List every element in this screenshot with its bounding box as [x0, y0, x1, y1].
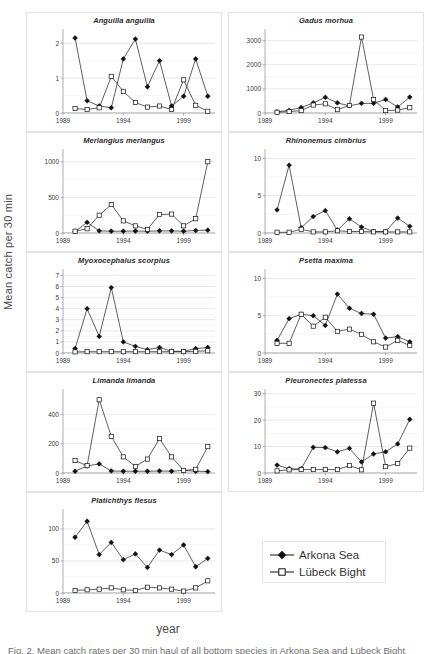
svg-text:100: 100: [48, 525, 59, 532]
data-point-lubeck-bight: [299, 312, 303, 316]
data-point-lubeck-bight: [347, 327, 351, 331]
data-point-lubeck-bight: [408, 343, 412, 347]
data-point-arkona-sea: [383, 336, 388, 341]
data-point-lubeck-bight: [359, 468, 363, 472]
data-point-lubeck-bight: [133, 100, 137, 104]
data-point-lubeck-bight: [182, 589, 186, 593]
chart-panel: Rhinonemus cimbrius0510198919941999: [228, 132, 424, 252]
data-point-lubeck-bight: [384, 345, 388, 349]
data-point-arkona-sea: [335, 449, 340, 454]
data-point-lubeck-bight: [335, 229, 339, 233]
chart-plot: 0102030198919941999: [229, 385, 425, 493]
series-line: [277, 165, 410, 231]
data-point-lubeck-bight: [73, 350, 77, 354]
series-line: [277, 229, 410, 232]
data-point-lubeck-bight: [299, 467, 303, 471]
data-point-lubeck-bight: [396, 230, 400, 234]
data-point-lubeck-bight: [335, 108, 339, 112]
data-point-lubeck-bight: [359, 229, 363, 233]
filled-diamond-icon: [269, 549, 295, 561]
svg-text:2: 2: [55, 327, 59, 334]
figure-caption: Fig. 2. Mean catch rates per 30 min haul…: [8, 645, 428, 654]
data-point-lubeck-bight: [85, 588, 89, 592]
data-point-arkona-sea: [395, 442, 400, 447]
svg-text:1989: 1989: [56, 597, 71, 604]
chart-plot: 0200400198919941999: [27, 385, 223, 493]
data-point-lubeck-bight: [396, 338, 400, 342]
data-point-lubeck-bight: [121, 588, 125, 592]
data-point-arkona-sea: [121, 557, 126, 562]
series-line: [75, 400, 208, 471]
svg-text:1989: 1989: [56, 237, 71, 244]
data-point-lubeck-bight: [206, 349, 210, 353]
chart-title: Pleuronectes platessa: [229, 376, 423, 385]
svg-text:1994: 1994: [116, 357, 131, 364]
data-point-lubeck-bight: [323, 230, 327, 234]
data-point-lubeck-bight: [311, 103, 315, 107]
data-point-lubeck-bight: [169, 107, 173, 111]
data-point-arkona-sea: [287, 316, 292, 321]
data-point-lubeck-bight: [169, 455, 173, 459]
data-point-lubeck-bight: [206, 109, 210, 113]
chart-plot: 0510198919941999: [229, 145, 425, 253]
data-point-arkona-sea: [133, 37, 138, 42]
data-point-arkona-sea: [359, 225, 364, 230]
legend-label: Arkona Sea: [299, 549, 359, 561]
data-point-lubeck-bight: [384, 108, 388, 112]
chart-title: Limanda limanda: [27, 376, 221, 385]
data-point-lubeck-bight: [97, 398, 101, 402]
data-point-arkona-sea: [205, 94, 210, 99]
svg-text:1994: 1994: [116, 477, 131, 484]
data-point-lubeck-bight: [347, 463, 351, 467]
data-point-arkona-sea: [371, 452, 376, 457]
data-point-lubeck-bight: [275, 110, 279, 114]
legend-item-arkona-sea: Arkona Sea: [269, 546, 379, 563]
svg-text:10: 10: [254, 443, 262, 450]
data-point-lubeck-bight: [347, 229, 351, 233]
data-point-lubeck-bight: [145, 350, 149, 354]
data-point-lubeck-bight: [311, 467, 315, 471]
data-point-lubeck-bight: [194, 467, 198, 471]
svg-text:1994: 1994: [116, 237, 131, 244]
svg-text:20: 20: [254, 417, 262, 424]
svg-text:1999: 1999: [176, 597, 191, 604]
data-point-lubeck-bight: [287, 468, 291, 472]
data-point-lubeck-bight: [109, 434, 113, 438]
svg-text:0: 0: [55, 230, 59, 237]
chart-plot: 01234567198919941999: [27, 265, 223, 373]
chart-panel: Anguilla anguilla012198919941999: [26, 12, 222, 132]
chart-plot: 0510198919941999: [229, 265, 425, 373]
data-point-lubeck-bight: [371, 401, 375, 405]
chart-title: Merlangius merlangus: [27, 136, 221, 145]
data-point-lubeck-bight: [347, 103, 351, 107]
svg-text:0: 0: [257, 110, 261, 117]
data-point-lubeck-bight: [182, 224, 186, 228]
data-point-arkona-sea: [109, 105, 114, 110]
svg-text:1000: 1000: [247, 85, 262, 92]
svg-text:10: 10: [254, 155, 262, 162]
data-point-lubeck-bight: [311, 324, 315, 328]
data-point-lubeck-bight: [109, 350, 113, 354]
chart-plot: 012198919941999: [27, 25, 223, 133]
legend-label: Lübeck Bight: [299, 566, 366, 578]
chart-panel: Merlangius merlangus05001000198919941999: [26, 132, 222, 252]
legend: Arkona Sea Lübeck Bight: [262, 541, 386, 583]
data-point-lubeck-bight: [323, 102, 327, 106]
series-line: [75, 581, 208, 591]
y-axis-label: Mean catch per 30 min: [2, 140, 14, 310]
data-point-arkona-sea: [323, 95, 328, 100]
data-point-arkona-sea: [275, 463, 280, 468]
svg-text:500: 500: [48, 194, 59, 201]
data-point-arkona-sea: [85, 98, 90, 103]
data-point-arkona-sea: [359, 101, 364, 106]
data-point-lubeck-bight: [335, 329, 339, 333]
svg-text:1999: 1999: [176, 477, 191, 484]
data-point-lubeck-bight: [182, 350, 186, 354]
data-point-lubeck-bight: [408, 106, 412, 110]
series-line: [277, 314, 410, 347]
data-point-lubeck-bight: [73, 458, 77, 462]
data-point-lubeck-bight: [121, 219, 125, 223]
data-point-arkona-sea: [287, 163, 292, 168]
svg-text:2: 2: [55, 40, 59, 47]
series-line: [75, 521, 208, 567]
